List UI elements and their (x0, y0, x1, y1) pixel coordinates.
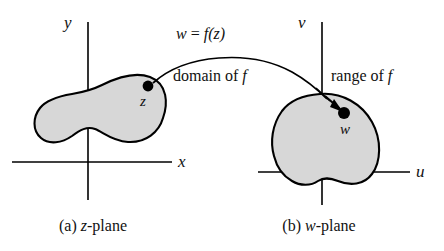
range-region-label-function: f (388, 67, 392, 84)
z-point-label: z (140, 94, 146, 109)
z-plane-caption-suffix: -plane (87, 217, 127, 234)
w-plane-caption-suffix: -plane (316, 217, 356, 234)
domain-region-label-text: domain of (173, 67, 242, 84)
z-plane-x-axis-label: x (178, 153, 186, 170)
range-region-label-text: range of (331, 67, 388, 84)
mapping-formula-lhs: w (176, 25, 187, 42)
z-plane-y-axis-label: y (64, 14, 72, 31)
mapping-formula-rhs: f(z) (204, 25, 225, 42)
mapping-formula: w = f(z) (176, 26, 225, 42)
z-plane-caption-prefix: (a) (59, 217, 77, 234)
w-plane-caption-name: w (305, 217, 316, 234)
w-plane-u-axis-label: u (416, 163, 425, 180)
w-point-label: w (340, 122, 350, 137)
range-region-label: range of f (331, 68, 392, 84)
domain-region-label-function: f (242, 67, 246, 84)
complex-mapping-figure: y x z v u w w = f(z) domain of f range o… (0, 0, 444, 251)
w-plane-caption: (b) w-plane (254, 218, 384, 234)
mapping-formula-equals: = (191, 25, 200, 42)
domain-region-label: domain of f (173, 68, 247, 84)
z-plane-caption: (a) z-plane (28, 218, 158, 234)
z-point-marker (143, 81, 154, 92)
w-plane-caption-prefix: (b) (282, 217, 301, 234)
range-region-blob (272, 94, 379, 185)
w-plane-v-axis-label: v (298, 14, 306, 31)
